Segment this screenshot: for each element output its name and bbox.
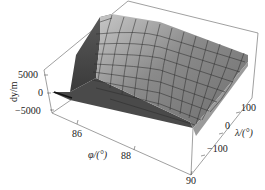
y-tick-100: 100 — [241, 103, 256, 113]
z-axis-title: dy/m — [8, 81, 19, 102]
z-tick-0: 0 — [38, 88, 43, 98]
y-tick-minus-100: −100 — [207, 144, 228, 154]
y-tick-0: 0 — [225, 121, 230, 131]
surface-mesh — [52, 14, 248, 136]
x-tick-90: 90 — [186, 176, 196, 186]
z-tick-minus-5000: −5000 — [15, 106, 41, 116]
x-tick-86: 86 — [72, 129, 82, 139]
x-axis-title: φ/(°) — [88, 150, 107, 160]
x-tick-88: 88 — [121, 151, 131, 161]
z-tick-5000: 5000 — [18, 70, 38, 80]
y-axis-title: λ/(°) — [235, 128, 253, 138]
